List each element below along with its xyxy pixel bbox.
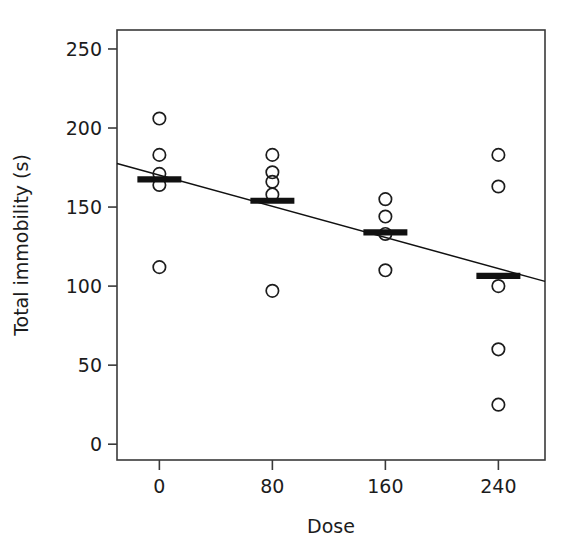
x-tick-label: 160	[367, 475, 403, 497]
data-point	[492, 398, 504, 410]
data-point	[379, 264, 391, 276]
data-point	[492, 280, 504, 292]
x-axis-title: Dose	[307, 515, 355, 537]
plot-frame	[117, 30, 545, 460]
x-tick-label: 0	[153, 475, 165, 497]
data-point	[153, 261, 165, 273]
y-tick-label: 150	[66, 196, 102, 218]
data-point	[153, 149, 165, 161]
x-tick-label: 80	[260, 475, 284, 497]
data-point	[266, 149, 278, 161]
y-tick-label: 50	[78, 354, 102, 376]
scatter-plot-figure: 050100150200250080160240DoseTotal immobi…	[0, 0, 576, 557]
data-point	[153, 112, 165, 124]
y-tick-label: 0	[90, 433, 102, 455]
y-tick-label: 250	[66, 38, 102, 60]
data-point	[492, 149, 504, 161]
data-point	[379, 193, 391, 205]
data-point	[266, 176, 278, 188]
data-point	[492, 343, 504, 355]
y-tick-label: 100	[66, 275, 102, 297]
data-point	[266, 285, 278, 297]
x-tick-label: 240	[480, 475, 516, 497]
data-point	[379, 210, 391, 222]
y-tick-label: 200	[66, 117, 102, 139]
y-axis-title: Total immobility (s)	[10, 154, 32, 337]
data-point	[492, 180, 504, 192]
plot-canvas: 050100150200250080160240DoseTotal immobi…	[0, 0, 576, 557]
